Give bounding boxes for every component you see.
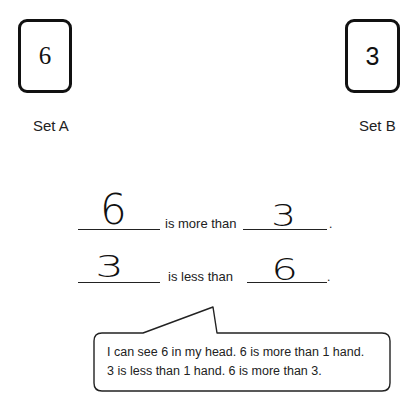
callout-line-1: I can see 6 in my head. 6 is more than 1…: [107, 343, 364, 362]
speech-bubble: [0, 0, 415, 399]
callout-text: I can see 6 in my head. 6 is more than 1…: [107, 343, 364, 381]
callout-line-2: 3 is less than 1 hand. 6 is more than 3.: [107, 362, 364, 381]
